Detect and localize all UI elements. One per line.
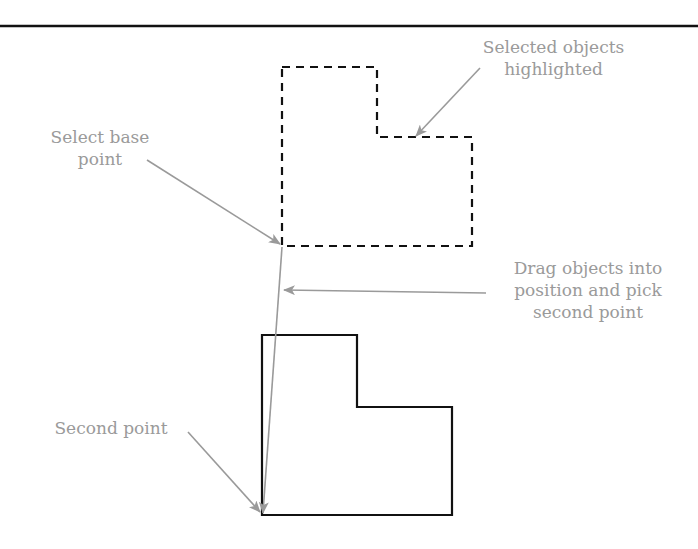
select-base-point-label-line1: Select base [30,126,170,148]
moved-objects-outline [262,335,452,515]
selected-objects-label: Selected objects highlighted [466,36,641,80]
drag-objects-label: Drag objects into position and pick seco… [488,257,688,323]
drag-objects-label-line3: second point [488,301,688,323]
drag-objects-label-line1: Drag objects into [488,257,688,279]
selected-objects-outline [282,67,472,246]
second-point-label: Second point [36,417,186,439]
drag-objects-label-line2: position and pick [488,279,688,301]
second-point-label-line1: Second point [36,417,186,439]
move-vector-line [263,247,282,513]
select-base-point-label-line2: point [30,148,170,170]
drag-arrow [284,290,486,293]
selected-objects-label-line2: highlighted [466,58,641,80]
second-point-arrow [188,432,260,512]
select-base-point-label: Select base point [30,126,170,170]
selected-objects-label-line1: Selected objects [466,36,641,58]
base-point-arrow [147,160,280,244]
